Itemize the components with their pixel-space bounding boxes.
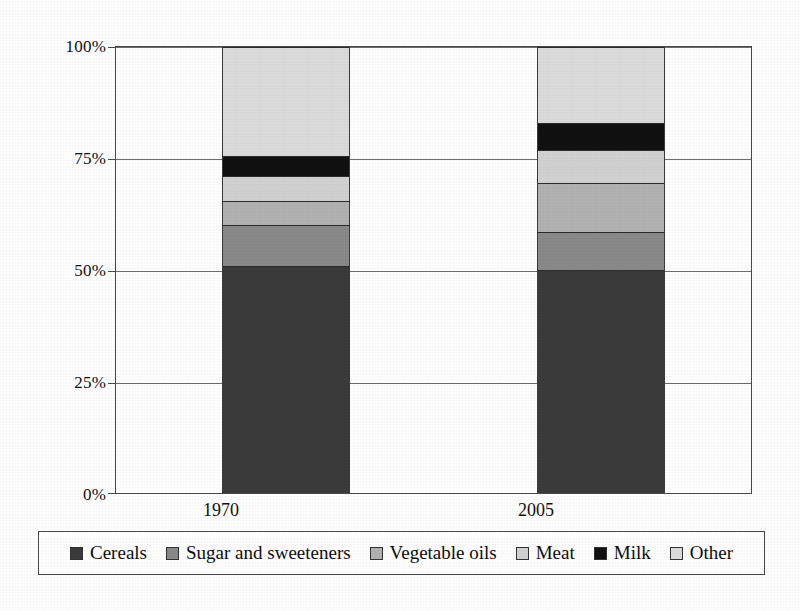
chart-legend: Cereals Sugar and sweeteners Vegetable o…: [38, 531, 765, 575]
legend-swatch-icon: [70, 547, 83, 560]
x-tick-label-1970: 1970: [121, 500, 321, 520]
legend-swatch-icon: [670, 547, 683, 560]
bar-segment-meat[interactable]: [538, 150, 664, 183]
stacked-bar-chart-figure: 100% 75% 50% 25% 0%: [0, 0, 800, 611]
bar-segment-cereals[interactable]: [223, 266, 349, 493]
bar-segment-other[interactable]: [223, 47, 349, 156]
bar-segment-meat[interactable]: [223, 176, 349, 201]
bar-segment-milk[interactable]: [223, 156, 349, 176]
y-tick-mark-50: [108, 271, 116, 272]
bar-2005[interactable]: [537, 47, 665, 493]
legend-item-vegetable-oils[interactable]: Vegetable oils: [370, 543, 497, 563]
legend-item-sugar-and-sweeteners[interactable]: Sugar and sweeteners: [166, 543, 351, 563]
y-tick-mark-0: [108, 493, 116, 494]
legend-item-label: Sugar and sweeteners: [186, 543, 351, 563]
legend-item-label: Other: [690, 543, 733, 563]
x-tick-label-2005: 2005: [436, 500, 636, 520]
plot-area: [115, 46, 752, 494]
legend-item-label: Meat: [536, 543, 575, 563]
y-tick-mark-100: [108, 47, 116, 48]
y-tick-label-0: 0%: [83, 486, 106, 503]
legend-item-label: Milk: [614, 543, 651, 563]
bar-segment-other[interactable]: [538, 47, 664, 123]
legend-item-cereals[interactable]: Cereals: [70, 543, 147, 563]
bar-segment-sugar[interactable]: [223, 225, 349, 265]
legend-item-other[interactable]: Other: [670, 543, 733, 563]
bar-segment-vegetable-oils[interactable]: [538, 183, 664, 232]
y-tick-mark-25: [108, 383, 116, 384]
y-tick-label-50: 50%: [74, 262, 106, 279]
legend-swatch-icon: [370, 547, 383, 560]
y-tick-label-25: 25%: [74, 374, 106, 391]
legend-item-label: Cereals: [90, 543, 147, 563]
legend-swatch-icon: [166, 547, 179, 560]
bar-segment-vegetable-oils[interactable]: [223, 201, 349, 226]
bar-segment-cereals[interactable]: [538, 270, 664, 493]
legend-item-meat[interactable]: Meat: [516, 543, 575, 563]
y-tick-label-100: 100%: [66, 38, 106, 55]
bar-segment-sugar[interactable]: [538, 232, 664, 270]
bar-segment-milk[interactable]: [538, 123, 664, 150]
bar-1970[interactable]: [222, 47, 350, 493]
legend-item-milk[interactable]: Milk: [594, 543, 651, 563]
y-tick-label-75: 75%: [74, 150, 106, 167]
legend-swatch-icon: [594, 547, 607, 560]
legend-swatch-icon: [516, 547, 529, 560]
legend-item-label: Vegetable oils: [390, 543, 497, 563]
y-tick-mark-75: [108, 159, 116, 160]
